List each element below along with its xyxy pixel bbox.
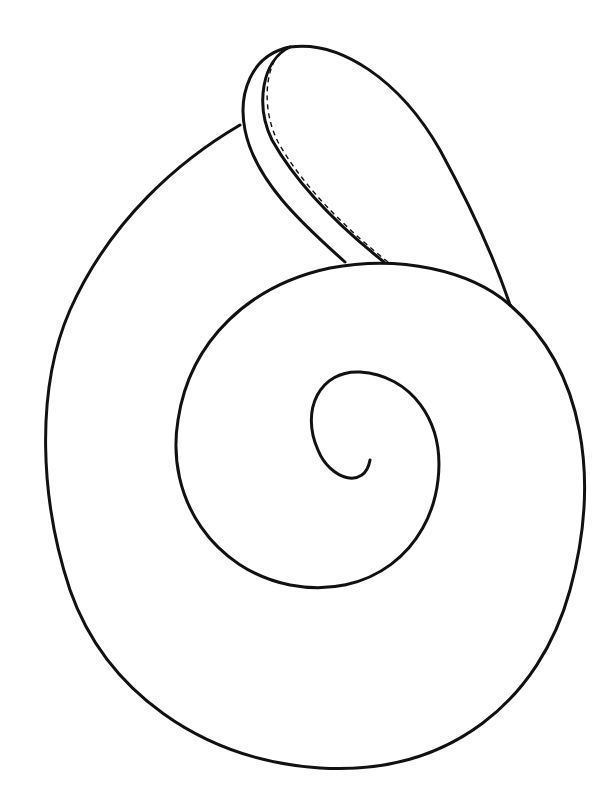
shell-lip-inner-edge: [263, 47, 384, 262]
shell-aperture-lip: [243, 46, 510, 305]
snail-shell-drawing: [0, 0, 613, 812]
canvas: [0, 0, 613, 812]
shell-spiral: [176, 263, 510, 587]
